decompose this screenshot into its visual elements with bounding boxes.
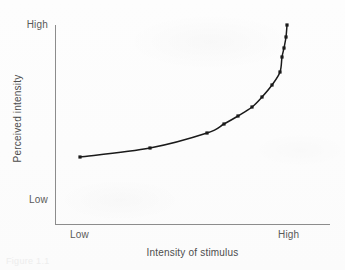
data-point [78, 155, 81, 158]
data-curve [80, 25, 287, 157]
data-point [284, 35, 287, 38]
data-point [270, 83, 273, 86]
data-point-markers [78, 23, 288, 158]
data-point [148, 146, 151, 149]
caption-fragment: Figure 1.1 [6, 256, 50, 266]
data-point [236, 114, 239, 117]
data-point [282, 46, 285, 49]
data-point [280, 55, 283, 58]
data-point [285, 23, 288, 26]
plot-area [0, 0, 345, 270]
data-point [260, 95, 263, 98]
figure-container: High Low Low High Perceived intensity In… [0, 0, 345, 270]
data-point [222, 122, 225, 125]
data-point [205, 131, 208, 134]
data-point [278, 70, 281, 73]
data-point [250, 105, 253, 108]
